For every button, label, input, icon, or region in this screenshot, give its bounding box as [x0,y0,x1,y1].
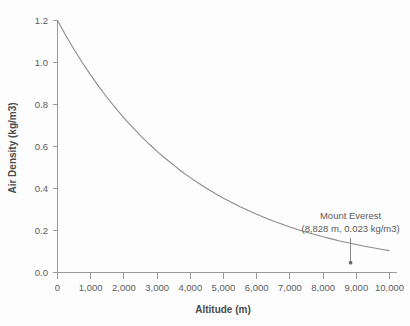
x-tick-label: 9,000 [344,282,368,293]
y-tick-label: 1.0 [35,57,48,68]
air-density-altitude-chart: 0.0 0.2 0.4 0.6 0.8 1.0 1.2 0 1,000 2,00… [0,0,410,326]
x-axis-ticks: 0 1,000 2,000 3,000 4,000 5,000 6,000 7,… [55,273,404,294]
chart-figure: 0.0 0.2 0.4 0.6 0.8 1.0 1.2 0 1,000 2,00… [0,0,410,326]
y-tick-label: 0.2 [35,225,48,236]
x-tick-label: 4,000 [178,282,202,293]
y-tick-label: 1.2 [35,15,48,26]
x-axis-title: Altitude (m) [195,304,251,315]
y-tick-label: 0.0 [35,267,48,278]
annotation-value: (8,828 m, 0.023 kg/m3) [301,223,399,234]
mount-everest-annotation: Mount Everest (8,828 m, 0.023 kg/m3) [301,210,399,265]
annotation-point-marker [349,261,353,265]
y-axis-title: Air Density (kg/m3) [7,102,18,193]
y-tick-label: 0.4 [35,183,48,194]
x-tick-label: 3,000 [145,282,169,293]
x-tick-label: 10,000 [375,282,404,293]
annotation-title: Mount Everest [320,210,382,221]
y-axis-ticks: 0.0 0.2 0.4 0.6 0.8 1.0 1.2 [35,15,58,278]
x-tick-label: 0 [55,282,60,293]
x-tick-label: 1,000 [79,282,103,293]
x-tick-label: 7,000 [278,282,302,293]
x-tick-label: 8,000 [311,282,335,293]
y-tick-label: 0.8 [35,99,48,110]
x-tick-label: 2,000 [112,282,136,293]
x-tick-label: 5,000 [212,282,236,293]
y-tick-label: 0.6 [35,141,48,152]
x-tick-label: 6,000 [245,282,269,293]
